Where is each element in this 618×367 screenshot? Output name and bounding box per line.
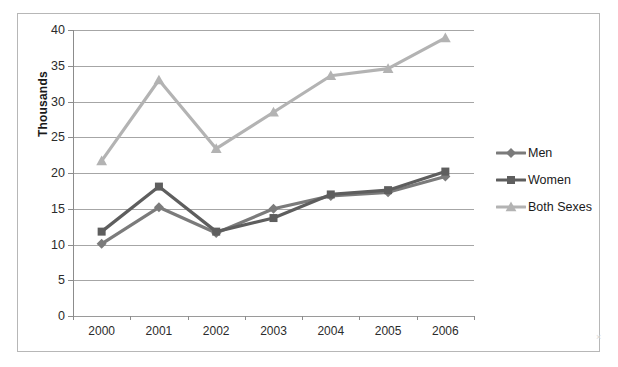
series-plot <box>73 30 474 316</box>
y-axis-label-35: 35 <box>51 59 65 73</box>
datapoint-women-2002 <box>212 228 220 236</box>
datapoint-both-sexes-2006 <box>440 32 451 42</box>
legend-label-women: Women <box>528 173 571 187</box>
chart-frame: Thousands 0510152025303540 2000200120022… <box>17 13 600 352</box>
datapoint-women-2000 <box>98 228 106 236</box>
datapoint-women-2001 <box>155 183 163 191</box>
series-both-sexes <box>96 32 451 165</box>
y-axis-label-15: 15 <box>51 202 65 216</box>
datapoint-women-2006 <box>441 168 449 176</box>
x-tick-2 <box>188 316 189 320</box>
legend-label-both-sexes: Both Sexes <box>528 200 592 214</box>
y-axis-label-30: 30 <box>51 95 65 109</box>
y-axis-label-25: 25 <box>51 130 65 144</box>
y-axis-label-10: 10 <box>51 238 65 252</box>
y-axis-label-20: 20 <box>51 166 65 180</box>
y-axis-label-40: 40 <box>51 23 65 37</box>
x-tick-4 <box>302 316 303 320</box>
y-axis-title: Thousands <box>34 54 52 154</box>
series-women <box>98 168 450 236</box>
series-men <box>97 172 451 249</box>
legend-swatch-men <box>496 146 526 160</box>
plot-area: 0510152025303540 20002001200220032004200… <box>73 30 474 316</box>
datapoint-both-sexes-2001 <box>154 75 165 85</box>
x-tick-5 <box>359 316 360 320</box>
datapoint-women-2003 <box>270 214 278 222</box>
x-tick-6 <box>417 316 418 320</box>
x-axis-label-2003: 2003 <box>260 324 287 338</box>
y-axis-label-0: 0 <box>58 309 65 323</box>
x-tick-0 <box>73 316 74 320</box>
legend-label-men: Men <box>528 146 552 160</box>
x-tick-1 <box>130 316 131 320</box>
datapoint-women-2005 <box>384 186 392 194</box>
x-axis-label-2005: 2005 <box>375 324 402 338</box>
x-axis-label-2004: 2004 <box>317 324 344 338</box>
legend-item-women[interactable]: Women <box>496 173 592 187</box>
y-axis-label-5: 5 <box>58 273 65 287</box>
legend-swatch-both-sexes <box>496 200 526 214</box>
x-tick-7 <box>474 316 475 320</box>
chart-legend: Men Women Both Sexes <box>496 146 592 214</box>
legend-swatch-women <box>496 173 526 187</box>
scan-artifact: × <box>596 334 602 340</box>
datapoint-women-2004 <box>327 190 335 198</box>
x-axis-label-2000: 2000 <box>88 324 115 338</box>
x-axis-label-2002: 2002 <box>203 324 230 338</box>
datapoint-men-2003 <box>269 204 279 214</box>
gridline-0 <box>73 316 474 317</box>
legend-item-both-sexes[interactable]: Both Sexes <box>496 200 592 214</box>
legend-item-men[interactable]: Men <box>496 146 592 160</box>
x-axis-label-2006: 2006 <box>432 324 459 338</box>
x-tick-3 <box>245 316 246 320</box>
x-axis-label-2001: 2001 <box>146 324 173 338</box>
